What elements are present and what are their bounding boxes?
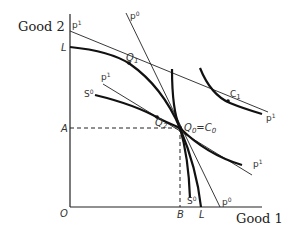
label-p0-bottom: p0: [222, 196, 232, 207]
label-p1-right-upper: p1: [266, 112, 276, 123]
y-axis-title: Good 2: [18, 19, 65, 34]
label-p1-mid: p1: [101, 71, 111, 82]
origin-label: O: [60, 208, 68, 219]
point-C1: [226, 99, 230, 103]
label-S0-bottom: S0: [187, 195, 197, 206]
indifference-curve-C0-upper: [172, 69, 180, 128]
point-Q0: [178, 126, 182, 130]
label-B: B: [177, 209, 184, 220]
label-L-x: L: [199, 209, 205, 220]
label-L-y: L: [61, 42, 67, 53]
label-p1-top: p1: [72, 19, 82, 30]
label-C1: C1: [230, 89, 241, 101]
x-axis-title: Good 1: [236, 211, 283, 226]
trade-diagram: Good 2 Good 1 O L A B L p1 p0 Q1 p1 S0 Q…: [0, 0, 292, 235]
label-p1-right-lower: p1: [253, 158, 263, 169]
label-p0-top: p0: [130, 10, 140, 21]
label-Q0-C0: Q0=C0: [184, 122, 217, 135]
label-A: A: [60, 123, 68, 134]
label-S0-left: S0: [84, 88, 94, 99]
